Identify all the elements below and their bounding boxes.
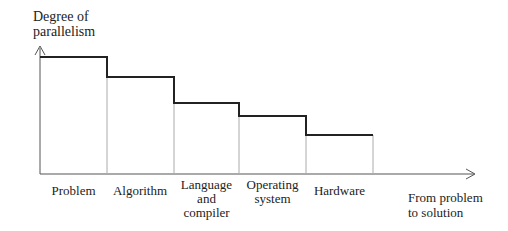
y-axis-label-line: parallelism <box>33 24 95 39</box>
y-axis-label: Degree of parallelism <box>33 9 95 39</box>
stage-label-operating-system: Operating system <box>239 178 306 206</box>
stage-label-algorithm: Algorithm <box>105 184 175 198</box>
stage-label-line: Operating <box>239 178 306 192</box>
parallelism-step-line <box>40 57 373 135</box>
x-axis-label-line: to solution <box>408 205 483 220</box>
y-axis-label-line: Degree of <box>33 9 95 24</box>
stage-label-line: Hardware <box>306 184 373 198</box>
parallelism-diagram: Degree of parallelism Problem Algorithm … <box>0 0 508 231</box>
stage-label-language-compiler: Language and compiler <box>174 178 239 220</box>
x-axis-label-line: From problem <box>408 190 483 205</box>
stage-label-line: system <box>239 192 306 206</box>
stage-label-line: Problem <box>40 184 107 198</box>
x-axis-label: From problem to solution <box>408 190 483 220</box>
stage-label-line: compiler <box>174 206 239 220</box>
stage-label-problem: Problem <box>40 184 107 198</box>
stage-label-line: and <box>174 192 239 206</box>
stage-label-line: Algorithm <box>105 184 175 198</box>
stage-label-hardware: Hardware <box>306 184 373 198</box>
stage-label-line: Language <box>174 178 239 192</box>
